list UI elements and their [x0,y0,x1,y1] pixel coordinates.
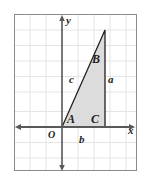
origin-label: O [48,129,55,140]
vertex-label-b: B [91,52,100,66]
side-label-b: b [79,133,85,145]
vertex-label-a: A [66,112,75,126]
coordinate-plane-figure: y x O A C B a b c [0,0,145,182]
y-axis-label: y [64,14,71,26]
x-axis-label: x [127,124,134,136]
side-label-a: a [108,73,114,85]
side-label-c: c [69,73,74,85]
vertex-label-c: C [91,112,100,126]
figure-container: y x O A C B a b c [0,0,145,182]
